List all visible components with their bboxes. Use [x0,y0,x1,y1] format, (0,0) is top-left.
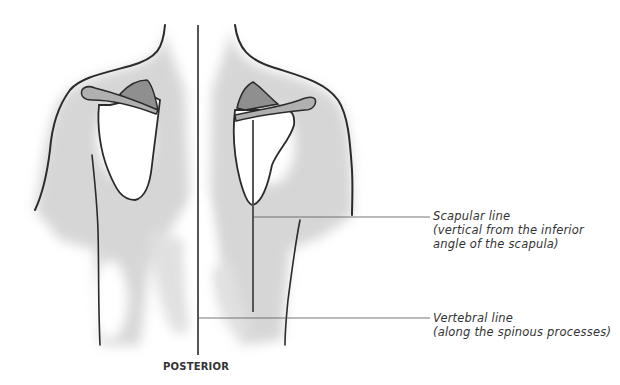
scapular-line-title: Scapular line [433,209,584,223]
scapular-line-desc-1: (vertical from the inferior [433,223,584,237]
view-caption: POSTERIOR [163,361,229,372]
scapular-line-label: Scapular line (vertical from the inferio… [433,209,584,251]
vertebral-line-label: Vertebral line (along the spinous proces… [433,311,611,339]
vertebral-line-title: Vertebral line [433,311,611,325]
vertebral-line-desc: (along the spinous processes) [433,325,611,339]
scapular-line-desc-2: angle of the scapula) [433,237,584,251]
